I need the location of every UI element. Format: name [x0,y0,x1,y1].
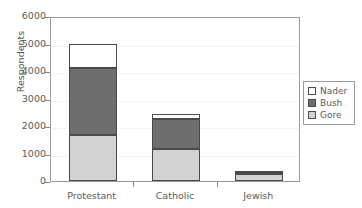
bar-jewish[interactable] [235,16,283,181]
x-tick [133,182,134,187]
y-tick-label: 0 [40,176,46,186]
bar-protestant[interactable] [69,16,117,181]
y-tick-label: 4000 [22,66,46,76]
x-tick [217,182,218,187]
bar-catholic[interactable] [152,16,200,181]
legend-label: Nader [320,87,347,96]
x-tick-label-protestant: Protestant [47,190,137,201]
y-tick-label: 6000 [22,11,46,21]
legend-label: Gore [320,111,342,120]
bar-segment-protestant-nader[interactable] [69,44,117,68]
legend-swatch-gore-icon [308,111,316,119]
legend-swatch-bush-icon [308,99,316,107]
bar-segment-protestant-gore[interactable] [69,135,117,181]
x-tick-label-jewish: Jewish [213,190,303,201]
y-tick-label: 3000 [22,94,46,104]
legend-swatch-nader-icon [308,87,316,95]
stacked-bar-chart: Respondents 0100020003000400050006000 Pr… [0,0,362,208]
bar-segment-protestant-bush[interactable] [69,68,117,135]
legend-item-nader[interactable]: Nader [308,85,351,97]
bar-segment-catholic-bush[interactable] [152,119,200,149]
plot-inner [51,18,299,181]
y-tick-label: 5000 [22,39,46,49]
bar-segment-catholic-gore[interactable] [152,149,200,181]
bar-segment-jewish-gore[interactable] [235,174,283,181]
bar-segment-jewish-nader[interactable] [235,171,283,173]
y-tick-label: 1000 [22,149,46,159]
legend-item-gore[interactable]: Gore [308,109,351,121]
legend[interactable]: NaderBushGore [303,81,355,125]
plot-area [50,17,300,182]
bar-segment-catholic-nader[interactable] [152,114,200,119]
legend-label: Bush [320,99,342,108]
legend-item-bush[interactable]: Bush [308,97,351,109]
x-tick-label-catholic: Catholic [130,190,220,201]
y-tick-label: 2000 [22,121,46,131]
